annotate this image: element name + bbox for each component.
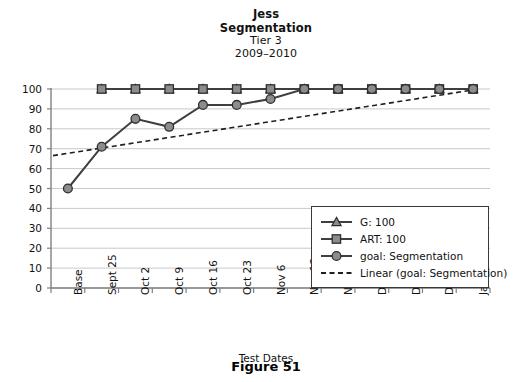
marker-circle-6 — [266, 95, 275, 104]
legend-swatch-circle — [320, 249, 353, 263]
y-tick-label-30: 30 — [8, 223, 42, 233]
y-tick-label-10: 10 — [8, 263, 42, 273]
y-tick-label-20: 20 — [8, 243, 42, 253]
legend-label-0: G: 100 — [360, 216, 395, 228]
marker-square-6 — [266, 85, 274, 93]
x-tick-label-4: Oct 16 — [208, 260, 218, 295]
x-tick-label-1: Sept 25 — [107, 254, 117, 295]
marker-circle-7 — [300, 85, 309, 94]
x-tick-label-5: Oct 23 — [242, 260, 252, 295]
marker-circle-5 — [232, 101, 241, 110]
marker-circle-8 — [334, 85, 343, 94]
x-tick-label-2: Oct 2 — [140, 267, 150, 295]
legend-label-1: ART: 100 — [360, 233, 406, 245]
y-tick-label-90: 90 — [8, 104, 42, 114]
plot-svg — [0, 0, 532, 382]
marker-circle-9 — [367, 85, 376, 94]
y-tick-label-50: 50 — [8, 184, 42, 194]
series-markers — [63, 84, 477, 193]
y-tick-label-70: 70 — [8, 144, 42, 154]
legend-swatch-square — [320, 232, 353, 246]
legend-item-1: ART: 100 — [320, 230, 479, 247]
x-tick-label-0: Base — [73, 269, 83, 295]
marker-circle-3 — [165, 122, 174, 131]
y-tick-label-80: 80 — [8, 124, 42, 134]
marker-square-3 — [165, 85, 173, 93]
marker-circle-1 — [97, 142, 106, 151]
marker-circle-2 — [131, 114, 140, 123]
marker-circle-10 — [401, 85, 410, 94]
marker-circle-4 — [199, 101, 208, 110]
marker-circle-12 — [469, 85, 478, 94]
x-tick-label-3: Oct 9 — [174, 267, 184, 295]
y-tick-label-0: 0 — [8, 283, 42, 293]
legend-item-0: G: 100 — [320, 213, 479, 230]
marker-square-4 — [199, 85, 207, 93]
marker-square-1 — [97, 85, 105, 93]
legend-swatch-triangle — [320, 215, 353, 229]
chart-figure: Jess Segmentation Tier 3 2009–2010 01020… — [0, 0, 532, 382]
chart-legend: G: 100ART: 100goal: SegmentationLinear (… — [311, 206, 489, 288]
legend-swatch-none — [320, 266, 353, 280]
legend-label-3: Linear (goal: Segmentation) — [360, 267, 507, 279]
marker-circle-11 — [435, 85, 444, 94]
legend-item-2: goal: Segmentation — [320, 247, 479, 264]
y-tick-label-100: 100 — [8, 84, 42, 94]
y-tick-label-60: 60 — [8, 164, 42, 174]
legend-label-2: goal: Segmentation — [360, 250, 463, 262]
x-tick-label-6: Nov 6 — [276, 264, 286, 295]
marker-square-2 — [131, 85, 139, 93]
plot-area: 0102030405060708090100 BaseSept 25Oct 2O… — [0, 0, 532, 382]
marker-square-5 — [233, 85, 241, 93]
figure-caption: Figure 51 — [0, 359, 532, 374]
marker-circle-0 — [63, 184, 72, 193]
legend-item-3: Linear (goal: Segmentation) — [320, 264, 479, 281]
y-tick-label-40: 40 — [8, 203, 42, 213]
